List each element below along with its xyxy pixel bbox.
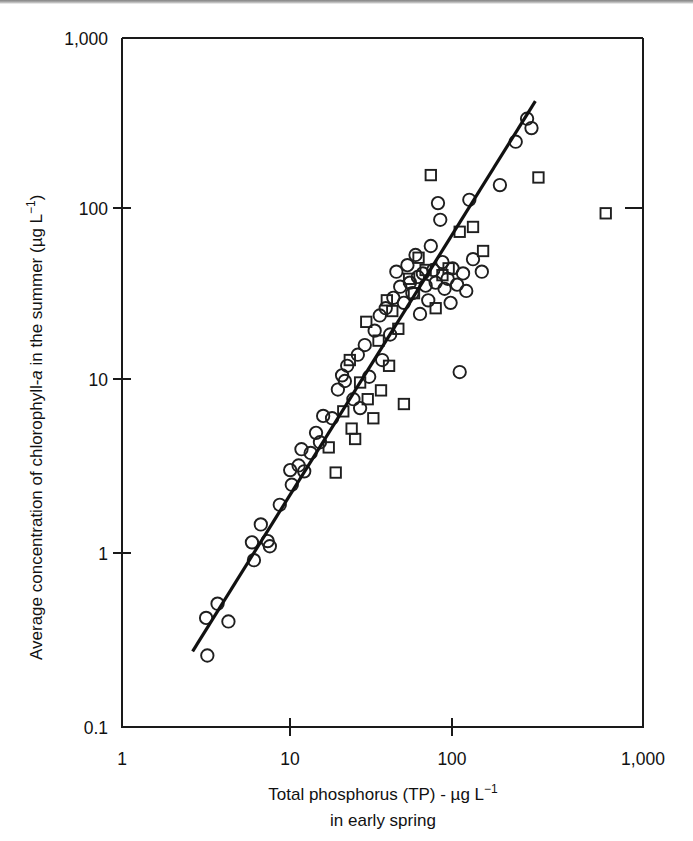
x-tick-label-10: 10 (280, 749, 300, 769)
y-axis-title-post: in the summer (µg L (27, 214, 46, 370)
plot-frame (122, 38, 643, 727)
y-tick-label-10: 10 (89, 370, 109, 390)
data-point-circle (414, 308, 426, 320)
data-point-square (426, 170, 436, 180)
y-axis-title-pre: Average concentration of chlorophyll- (27, 380, 46, 660)
data-point-circle (201, 649, 213, 661)
svg-text:Average concentration of chlor: Average concentration of chlorophyll-a i… (24, 195, 46, 660)
y-axis-title-exponent: −1 (24, 200, 38, 214)
data-point-square (533, 172, 543, 182)
data-point-square (468, 222, 478, 232)
figure-container: 1,000 100 10 1 0.1 1 10 100 1,000 Averag… (0, 0, 693, 841)
y-tick-labels: 1,000 100 10 1 0.1 (64, 29, 108, 738)
data-point-square (346, 423, 356, 433)
x-tick-label-1: 1 (117, 749, 127, 769)
data-point-square (368, 413, 378, 423)
y-tick-label-1: 1 (98, 544, 108, 564)
data-point-circle (422, 294, 434, 306)
data-point-circle (476, 265, 488, 277)
y-tick-label-0-1: 0.1 (84, 718, 108, 738)
data-point-circle (332, 383, 344, 395)
data-point-circle (222, 615, 234, 627)
data-point-circle (494, 179, 506, 191)
data-point-square (478, 246, 488, 256)
x-axis-title-line2: in early spring (330, 811, 436, 830)
trend-line (193, 101, 536, 651)
y-axis-title-tail: ) (27, 195, 46, 201)
data-point-circle (444, 297, 456, 309)
x-axis-title-main: Total phosphorus (TP) - µg L (268, 785, 484, 804)
y-tick-label-100: 100 (79, 199, 108, 219)
scan-edge-artifact (0, 0, 693, 4)
data-point-circle (317, 410, 329, 422)
data-point-circle (409, 249, 421, 261)
data-point-square (376, 385, 386, 395)
data-point-circle (425, 240, 437, 252)
svg-text:Total phosphorus (TP) - µg L−1: Total phosphorus (TP) - µg L−1 (268, 782, 498, 804)
x-axis-title-exponent: −1 (484, 782, 498, 796)
x-tick-label-1000: 1,000 (621, 749, 665, 769)
y-axis-title: Average concentration of chlorophyll-a i… (24, 195, 46, 660)
data-point-circle (460, 285, 472, 297)
x-axis-title: Total phosphorus (TP) - µg L−1 in early … (268, 782, 498, 830)
data-point-circle (359, 339, 371, 351)
data-point-circle (255, 518, 267, 530)
data-point-circle (432, 197, 444, 209)
y-axis-title-italic-a: a (27, 370, 46, 379)
data-point-square (330, 467, 340, 477)
data-point-circle (453, 366, 465, 378)
data-point-square (601, 208, 611, 218)
data-point-circle (434, 214, 446, 226)
data-point-square (399, 399, 409, 409)
x-tick-labels: 1 10 100 1,000 (117, 749, 665, 769)
scatter-plot: 1,000 100 10 1 0.1 1 10 100 1,000 Averag… (0, 0, 693, 841)
data-point-square (350, 434, 360, 444)
x-tick-label-100: 100 (437, 749, 466, 769)
data-point-circle (457, 267, 469, 279)
data-markers (200, 113, 611, 662)
y-tick-label-1000: 1,000 (64, 29, 108, 49)
